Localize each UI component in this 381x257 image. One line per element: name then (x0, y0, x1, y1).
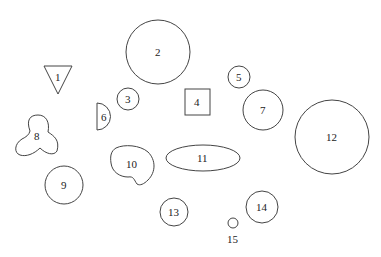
shape-6-label: 6 (101, 111, 107, 123)
shape-2-circle: 2 (126, 20, 190, 84)
shape-15-circle: 15 (227, 218, 239, 245)
shape-6-half-circle: 6 (97, 103, 111, 130)
shape-11-label: 11 (197, 152, 208, 164)
shape-4-label: 4 (194, 96, 200, 108)
shape-5-label: 5 (236, 71, 242, 83)
shape-8-trefoil: 8 (16, 115, 58, 156)
shape-9-label: 9 (61, 179, 67, 191)
shape-2-label: 2 (155, 46, 161, 58)
shape-8-label: 8 (34, 130, 40, 142)
shape-13-circle: 13 (160, 198, 188, 226)
shape-14-circle: 14 (246, 191, 278, 223)
shape-10-kidney: 10 (111, 146, 154, 185)
shape-1-label: 1 (55, 71, 61, 83)
shape-9-circle: 9 (45, 166, 83, 204)
shape-13-label: 13 (168, 206, 180, 218)
shape-3-label: 3 (125, 93, 131, 105)
diagram-canvas: 1 2 3 4 5 6 7 8 9 10 (0, 0, 381, 257)
shape-14-label: 14 (256, 201, 268, 213)
shape-3-circle: 3 (117, 88, 139, 110)
shape-12-circle: 12 (295, 100, 369, 174)
shape-5-circle: 5 (228, 66, 250, 88)
shape-1-triangle: 1 (44, 66, 72, 94)
shape-7-circle: 7 (243, 90, 283, 130)
shape-10-label: 10 (126, 158, 138, 170)
shape-11-ellipse: 11 (166, 145, 240, 171)
shape-12-label: 12 (326, 131, 337, 143)
shape-4-square: 4 (185, 89, 210, 115)
shape-15-label: 15 (227, 233, 239, 245)
shape-7-label: 7 (260, 104, 266, 116)
